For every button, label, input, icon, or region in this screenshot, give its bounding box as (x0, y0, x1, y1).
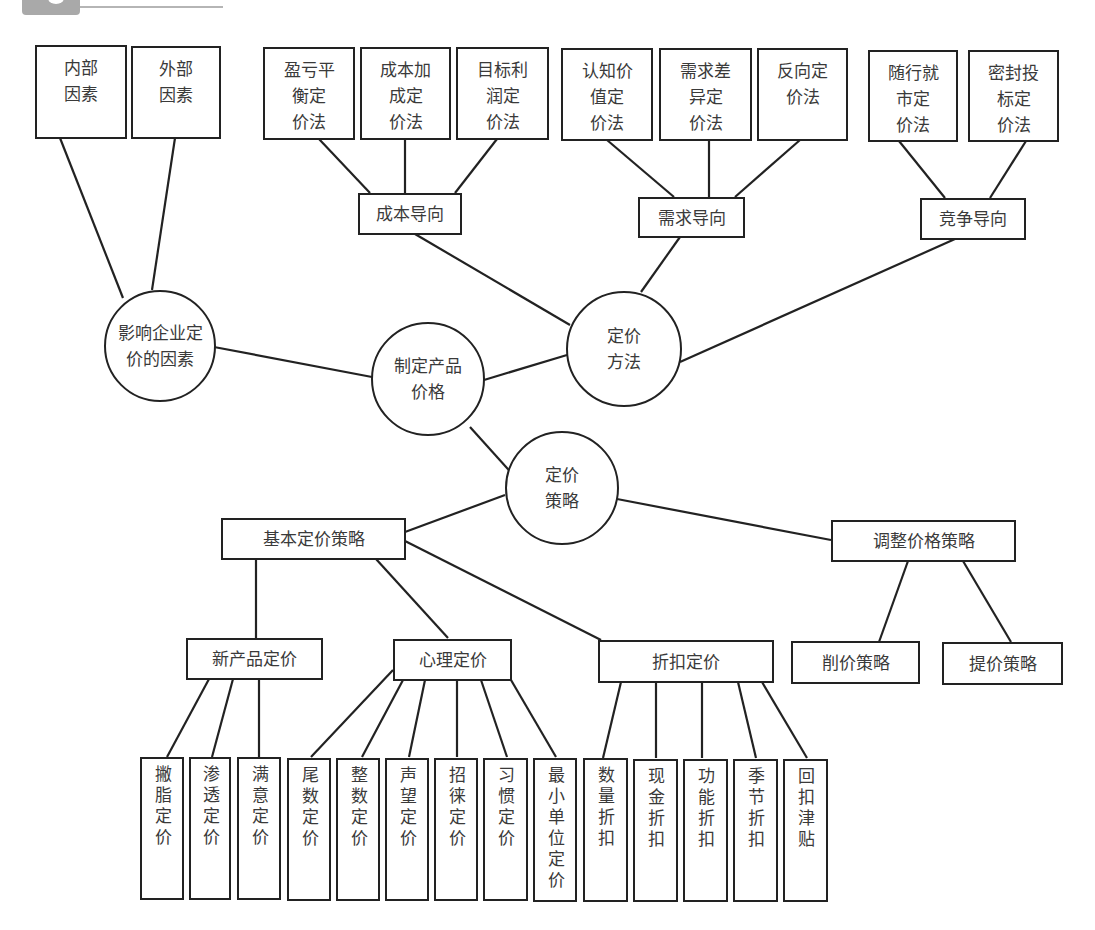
node-psychological-pricing: 心理定价 (393, 639, 512, 681)
node-round-number-pricing: 整数定价 (336, 758, 380, 901)
node-smallest-unit-pricing: 最小单位定价 (533, 758, 577, 902)
node-cost-plus-pricing: 成本加 成定 价法 (360, 47, 451, 140)
node-new-product-pricing: 新产品定价 (186, 638, 323, 680)
node-competition-oriented: 竞争导向 (920, 198, 1026, 240)
node-pricing-methods: 定价 方法 (566, 291, 682, 407)
node-cost-oriented: 成本导向 (358, 193, 462, 235)
node-penetration-pricing: 渗透定价 (189, 757, 231, 900)
node-adjust-price-strategy: 调整价格策略 (831, 520, 1016, 562)
node-going-rate-pricing: 随行就 市定 价法 (868, 50, 958, 142)
node-satisfaction-pricing: 满意定价 (237, 757, 281, 900)
node-prestige-pricing: 声望定价 (385, 758, 429, 901)
node-breakeven-pricing: 盈亏平 衡定 价法 (263, 47, 355, 140)
node-rebates-allowances: 回扣津贴 (783, 759, 828, 902)
node-internal-factors: 内部 因素 (35, 45, 127, 139)
node-pricing-strategies: 定价 策略 (505, 431, 619, 545)
node-customary-pricing: 习惯定价 (483, 758, 528, 901)
node-price-increase-strategy: 提价策略 (942, 642, 1063, 685)
node-pricing-factors: 影响企业定 价的因素 (104, 290, 216, 402)
node-skimming-pricing: 撇脂定价 (140, 757, 184, 900)
node-demand-differential-pricing: 需求差 异定 价法 (659, 48, 752, 141)
node-price-cut-strategy: 削价策略 (791, 641, 920, 684)
node-basic-pricing-strategy: 基本定价策略 (221, 518, 406, 560)
node-reverse-pricing: 反向定 价法 (757, 48, 848, 141)
node-set-product-price: 制定产品 价格 (371, 322, 485, 436)
node-discount-pricing: 折扣定价 (598, 640, 774, 683)
node-odd-number-pricing: 尾数定价 (287, 758, 331, 901)
pricing-concept-map: 内部 因素 外部 因素 盈亏平 衡定 价法 成本加 成定 价法 目标利 润定 价… (0, 0, 1095, 930)
node-demand-oriented: 需求导向 (638, 197, 745, 238)
node-seasonal-discount: 季节折扣 (733, 759, 778, 902)
node-sealed-bid-pricing: 密封投 标定 价法 (968, 50, 1059, 142)
node-target-profit-pricing: 目标利 润定 价法 (456, 47, 549, 140)
node-loss-leader-pricing: 招徕定价 (434, 758, 478, 901)
node-quantity-discount: 数量折扣 (583, 758, 628, 902)
node-functional-discount: 功能折扣 (683, 759, 728, 902)
node-perceived-value-pricing: 认知价 值定 价法 (561, 48, 653, 141)
node-cash-discount: 现金折扣 (633, 759, 678, 902)
node-external-factors: 外部 因素 (131, 46, 221, 139)
